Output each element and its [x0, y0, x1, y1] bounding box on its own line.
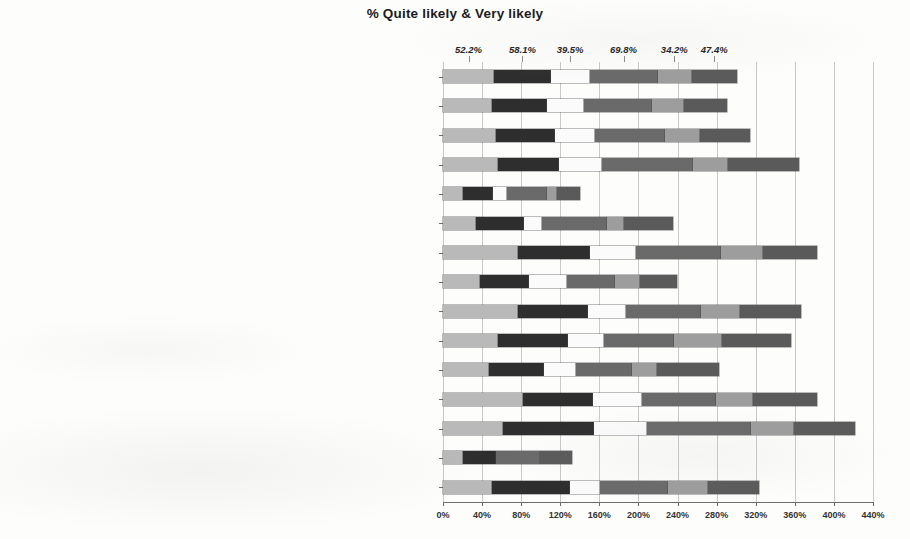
bar-segment: [494, 70, 551, 83]
stacked-bar: [443, 70, 737, 83]
segment-callout-label: 34.2%: [661, 44, 688, 55]
bar-segment: [443, 451, 463, 464]
bar-segment: [674, 334, 721, 347]
bar-segment: [493, 187, 507, 200]
bar-segment: [544, 363, 576, 376]
x-axis-tick-label: 160%: [588, 510, 611, 520]
bar-segment: [657, 363, 718, 376]
stacked-bar: [443, 305, 801, 318]
segment-callout-tick: [674, 56, 675, 62]
x-axis-tick-label: 80%: [512, 510, 530, 520]
x-axis-tick-label: 280%: [705, 510, 728, 520]
bar-segment: [607, 217, 624, 230]
bar-segment: [443, 158, 498, 171]
bar-segment: [600, 481, 668, 494]
bar-segment: [443, 246, 518, 259]
stacked-bar: [443, 246, 817, 259]
bar-segment: [594, 422, 647, 435]
bar-segment: [590, 246, 636, 259]
bar-segment: [632, 363, 657, 376]
bar-segment: [570, 481, 600, 494]
x-axis-tick-label: 440%: [861, 510, 884, 520]
bar-segment: [443, 70, 494, 83]
bar-segment: [626, 305, 701, 318]
stacked-bar: [443, 275, 677, 288]
bar-segment: [492, 99, 547, 112]
bar-segment: [602, 158, 693, 171]
bar-segment: [595, 129, 665, 142]
x-gridline: [795, 62, 796, 502]
bar-segment: [642, 393, 716, 406]
x-axis-tick-label: 320%: [744, 510, 767, 520]
bar-segment: [498, 334, 568, 347]
bar-segment: [443, 481, 492, 494]
bar-segment: [753, 393, 818, 406]
stacked-bar: [443, 129, 750, 142]
segment-callout-tick: [624, 56, 625, 62]
bar-segment: [576, 363, 633, 376]
stacked-bar: [443, 451, 572, 464]
bar-segment: [751, 422, 794, 435]
bar-segment: [518, 246, 589, 259]
x-gridline: [834, 62, 835, 502]
bar-segment: [722, 334, 791, 347]
x-axis-tick-label: 120%: [549, 510, 572, 520]
bar-segment: [443, 334, 498, 347]
x-axis-tick-label: 400%: [822, 510, 845, 520]
bar-segment: [489, 363, 544, 376]
bar-segment: [692, 70, 738, 83]
bar-segment: [555, 129, 595, 142]
bar-segment: [701, 305, 740, 318]
bar-segment: [794, 422, 856, 435]
bar-segment: [700, 129, 750, 142]
segment-callout-tick: [714, 56, 715, 62]
bar-segment: [763, 246, 817, 259]
bar-segment: [604, 334, 674, 347]
bar-segment: [443, 305, 518, 318]
bar-segment: [542, 217, 607, 230]
x-gridline: [756, 62, 757, 502]
bar-segment: [636, 246, 721, 259]
bar-segment: [496, 451, 541, 464]
bar-segment: [503, 422, 594, 435]
x-axis-tick-label: 0%: [436, 510, 449, 520]
x-axis-tick-label: 360%: [783, 510, 806, 520]
bar-segment: [443, 363, 489, 376]
bar-segment: [728, 158, 798, 171]
stacked-bar: [443, 363, 719, 376]
bar-segment: [443, 129, 496, 142]
bar-segment: [567, 275, 616, 288]
bar-segment: [507, 187, 547, 200]
bar-segment: [529, 275, 566, 288]
stacked-bar: [443, 334, 791, 347]
bar-segment: [557, 187, 580, 200]
stacked-bar: [443, 187, 580, 200]
segment-callout-label: 58.1%: [509, 44, 536, 55]
bar-segment: [588, 305, 627, 318]
bar-segment: [684, 99, 727, 112]
bar-segment: [476, 217, 525, 230]
chart-title: % Quite likely & Very likely: [0, 6, 910, 21]
x-axis-tick: [873, 502, 874, 506]
bar-segment: [498, 158, 559, 171]
x-gridline: [873, 62, 874, 502]
bar-segment: [480, 275, 529, 288]
x-axis-line: [443, 502, 873, 503]
bar-segment: [518, 305, 587, 318]
x-axis-tick-label: 240%: [666, 510, 689, 520]
bar-segment: [547, 187, 557, 200]
bar-segment: [443, 393, 523, 406]
segment-callout-label: 39.5%: [557, 44, 584, 55]
bar-segment: [523, 393, 592, 406]
bar-segment: [443, 422, 503, 435]
bar-segment: [640, 275, 676, 288]
segment-callout-label: 52.2%: [455, 44, 482, 55]
bar-segment: [443, 217, 476, 230]
bar-segment: [443, 99, 492, 112]
x-axis-tick-label: 40%: [473, 510, 491, 520]
bar-segment: [665, 129, 700, 142]
segment-callout-label: 47.4%: [701, 44, 728, 55]
segment-callout-tick: [469, 56, 470, 62]
bar-segment: [693, 158, 729, 171]
stacked-bar: [443, 481, 759, 494]
